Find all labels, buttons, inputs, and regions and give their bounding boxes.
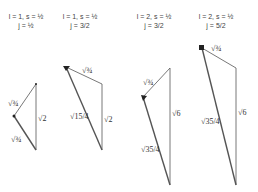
vector-diagram-2	[63, 66, 102, 150]
vector-diagrams: √¾ √¾ √2 √¾ √15/4 √2 √¾ √35/4 √6 √¾ √35/…	[0, 0, 258, 192]
diagram-3-vertical-label: √6	[172, 109, 180, 118]
diagram-3-long-label: √35/4	[141, 145, 160, 154]
diagram-4-long-label: √35/4	[201, 117, 220, 126]
vector-diagram-4	[199, 45, 236, 185]
diagram-2-vertical-label: √2	[104, 115, 112, 124]
diagram-1-vertical-label: √2	[38, 114, 46, 123]
diagram-2-long-label: √15/4	[70, 112, 89, 121]
diagram-1-lower-label: √¾	[11, 135, 21, 144]
diagram-4-upper-label: √¾	[211, 44, 221, 53]
diagram-2-upper-label: √¾	[82, 66, 92, 75]
diagram-1-upper-label: √¾	[8, 99, 18, 108]
diagram-4-vertical-label: √6	[238, 108, 246, 117]
diagram-3-upper-label: √¾	[143, 78, 153, 87]
